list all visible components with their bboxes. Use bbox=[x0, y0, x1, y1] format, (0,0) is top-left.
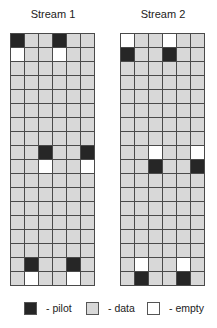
pilot-cell bbox=[135, 272, 148, 285]
empty-cell bbox=[149, 146, 162, 159]
data-cell bbox=[163, 104, 176, 117]
data-cell bbox=[11, 118, 24, 131]
data-cell bbox=[135, 48, 148, 61]
data-cell bbox=[135, 174, 148, 187]
pilot-swatch-icon bbox=[24, 302, 37, 315]
data-cell bbox=[135, 160, 148, 173]
data-cell bbox=[149, 104, 162, 117]
data-cell bbox=[191, 118, 204, 131]
data-cell bbox=[81, 62, 94, 75]
data-cell bbox=[39, 104, 52, 117]
data-cell bbox=[81, 48, 94, 61]
data-cell bbox=[53, 258, 66, 271]
data-cell bbox=[25, 104, 38, 117]
data-cell bbox=[135, 244, 148, 257]
data-cell bbox=[39, 202, 52, 215]
pilot-cell bbox=[121, 48, 134, 61]
data-cell bbox=[25, 230, 38, 243]
data-cell bbox=[191, 34, 204, 47]
empty-cell bbox=[191, 146, 204, 159]
data-cell bbox=[191, 202, 204, 215]
data-cell bbox=[177, 76, 190, 89]
pilot-cell bbox=[11, 34, 24, 47]
data-cell bbox=[163, 132, 176, 145]
data-cell bbox=[177, 118, 190, 131]
data-cell bbox=[149, 132, 162, 145]
data-cell bbox=[11, 104, 24, 117]
data-cell bbox=[67, 146, 80, 159]
data-cell bbox=[11, 272, 24, 285]
data-cell bbox=[11, 202, 24, 215]
data-cell bbox=[81, 118, 94, 131]
data-cell bbox=[177, 174, 190, 187]
data-cell bbox=[163, 244, 176, 257]
data-cell bbox=[81, 34, 94, 47]
data-cell bbox=[25, 160, 38, 173]
data-cell bbox=[81, 244, 94, 257]
empty-cell bbox=[121, 34, 134, 47]
data-cell bbox=[53, 62, 66, 75]
data-cell bbox=[39, 272, 52, 285]
data-cell bbox=[191, 216, 204, 229]
data-cell bbox=[25, 118, 38, 131]
data-cell bbox=[53, 244, 66, 257]
data-cell bbox=[149, 76, 162, 89]
data-cell bbox=[53, 230, 66, 243]
data-cell bbox=[191, 76, 204, 89]
pilot-cell bbox=[67, 258, 80, 271]
empty-cell bbox=[163, 34, 176, 47]
pilot-cell bbox=[163, 48, 176, 61]
data-cell bbox=[121, 230, 134, 243]
data-cell bbox=[81, 272, 94, 285]
data-cell bbox=[121, 258, 134, 271]
data-cell bbox=[177, 146, 190, 159]
data-cell bbox=[39, 188, 52, 201]
data-cell bbox=[149, 258, 162, 271]
data-cell bbox=[191, 244, 204, 257]
data-cell bbox=[11, 244, 24, 257]
data-cell bbox=[67, 118, 80, 131]
data-cell bbox=[11, 146, 24, 159]
data-cell bbox=[11, 230, 24, 243]
data-cell bbox=[81, 188, 94, 201]
data-cell bbox=[121, 76, 134, 89]
data-cell bbox=[149, 174, 162, 187]
data-cell bbox=[121, 216, 134, 229]
data-cell bbox=[39, 118, 52, 131]
data-cell bbox=[81, 90, 94, 103]
data-cell bbox=[191, 62, 204, 75]
data-cell bbox=[11, 76, 24, 89]
data-cell bbox=[163, 76, 176, 89]
data-cell bbox=[177, 244, 190, 257]
data-cell bbox=[135, 118, 148, 131]
pilot-cell bbox=[25, 258, 38, 271]
data-cell bbox=[67, 202, 80, 215]
data-cell bbox=[191, 174, 204, 187]
data-cell bbox=[67, 34, 80, 47]
empty-cell bbox=[177, 258, 190, 271]
data-cell bbox=[11, 258, 24, 271]
data-cell bbox=[135, 76, 148, 89]
pilot-cell bbox=[53, 34, 66, 47]
data-cell bbox=[67, 174, 80, 187]
pilot-cell bbox=[191, 160, 204, 173]
legend-label-empty: - empty bbox=[169, 302, 204, 314]
data-cell bbox=[81, 132, 94, 145]
data-cell bbox=[81, 76, 94, 89]
data-cell bbox=[163, 118, 176, 131]
data-cell bbox=[25, 174, 38, 187]
data-cell bbox=[67, 188, 80, 201]
data-cell bbox=[149, 62, 162, 75]
pilot-cell bbox=[39, 146, 52, 159]
data-cell bbox=[163, 258, 176, 271]
data-cell bbox=[135, 230, 148, 243]
data-cell bbox=[177, 160, 190, 173]
empty-cell bbox=[39, 160, 52, 173]
data-cell bbox=[53, 146, 66, 159]
data-cell bbox=[135, 62, 148, 75]
data-cell bbox=[121, 62, 134, 75]
legend-item-empty: - empty bbox=[147, 300, 204, 316]
data-cell bbox=[177, 90, 190, 103]
data-cell bbox=[121, 132, 134, 145]
data-cell bbox=[25, 132, 38, 145]
